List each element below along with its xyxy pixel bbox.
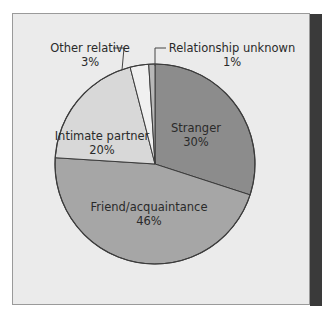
label-stranger-name: Stranger	[171, 121, 221, 135]
label-friend-pct: 46%	[136, 214, 162, 228]
label-relative-name: Other relative	[50, 41, 130, 55]
pie-slices	[55, 64, 255, 264]
label-partner-name: Intimate partner	[55, 129, 150, 143]
label-friend-name: Friend/acquaintance	[91, 200, 208, 214]
label-relative-pct: 3%	[81, 55, 99, 69]
label-partner-pct: 20%	[89, 143, 115, 157]
label-unknown-name: Relationship unknown	[169, 41, 296, 55]
pie-chart: Other relative 3% Relationship unknown 1…	[0, 0, 331, 318]
leader-line-unknown	[155, 48, 166, 66]
label-unknown-pct: 1%	[223, 55, 241, 69]
label-stranger-pct: 30%	[183, 135, 209, 149]
